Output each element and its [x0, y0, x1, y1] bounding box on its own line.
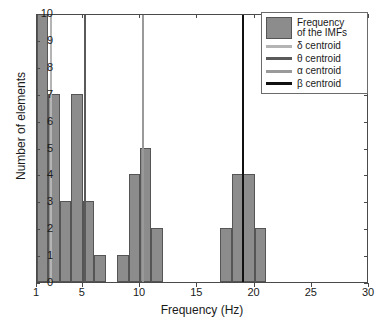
- y-tick-mark-right: [364, 95, 368, 96]
- x-tick-mark-top: [368, 14, 369, 18]
- legend-label-alpha: α centroid: [297, 66, 341, 77]
- x-tick-label: 15: [176, 287, 216, 298]
- x-tick-mark: [311, 283, 312, 287]
- x-tick-label: 1: [16, 287, 56, 298]
- histogram-bar: [117, 255, 128, 282]
- x-tick-mark: [254, 283, 255, 287]
- y-tick-mark-right: [364, 202, 368, 203]
- legend-label-beta: β centroid: [297, 79, 341, 90]
- y-tick-mark: [36, 95, 40, 96]
- centroid-line-alpha: [142, 15, 144, 282]
- y-tick-mark-right: [364, 122, 368, 123]
- y-tick-mark: [36, 149, 40, 150]
- legend-patch-frequency-imfs: [266, 17, 292, 39]
- x-tick-mark-top: [196, 14, 197, 18]
- y-tick-mark-right: [364, 229, 368, 230]
- x-tick-mark-top: [36, 14, 37, 18]
- legend-label-line2: of the IMFs: [297, 27, 347, 38]
- x-tick-mark: [196, 283, 197, 287]
- legend-line-delta: [266, 45, 292, 48]
- x-tick-label: 10: [119, 287, 159, 298]
- y-tick-mark: [36, 122, 40, 123]
- y-tick-mark-right: [364, 149, 368, 150]
- y-tick-mark: [36, 256, 40, 257]
- legend-label-delta: δ centroid: [297, 41, 341, 52]
- legend-label-frequency-imfs: Frequencyof the IMFs: [297, 18, 359, 39]
- x-axis-title: Frequency (Hz): [36, 303, 368, 317]
- y-tick-mark: [36, 175, 40, 176]
- histogram-bar: [71, 94, 82, 282]
- x-tick-label: 20: [234, 287, 274, 298]
- centroid-line-theta: [84, 15, 86, 282]
- legend-line-theta: [266, 57, 292, 60]
- y-tick-mark: [36, 229, 40, 230]
- legend-label-theta: θ centroid: [297, 54, 341, 65]
- legend-item-theta-centroid: θ centroid: [266, 54, 362, 65]
- x-tick-mark: [139, 283, 140, 287]
- x-tick-mark: [82, 283, 83, 287]
- legend-line-beta: [266, 82, 292, 85]
- legend-item-alpha-centroid: α centroid: [266, 66, 362, 77]
- y-tick-mark-right: [364, 175, 368, 176]
- x-tick-label: 25: [291, 287, 331, 298]
- y-tick-mark: [36, 202, 40, 203]
- legend-line-alpha: [266, 70, 292, 73]
- legend-label-line1: Frequency: [297, 17, 344, 28]
- x-tick-mark-top: [139, 14, 140, 18]
- legend-item-beta-centroid: β centroid: [266, 79, 362, 90]
- x-tick-label: 30: [348, 287, 388, 298]
- centroid-line-beta: [242, 15, 244, 282]
- histogram-bar: [94, 255, 105, 282]
- x-tick-mark-top: [82, 14, 83, 18]
- legend-item-delta-centroid: δ centroid: [266, 41, 362, 52]
- histogram-bar: [129, 174, 140, 282]
- histogram-bar: [220, 228, 231, 282]
- histogram-bar: [243, 174, 254, 282]
- histogram-figure: 012345678910 151015202530 Number of elem…: [0, 0, 392, 327]
- x-tick-label: 5: [62, 287, 102, 298]
- histogram-bar: [255, 228, 266, 282]
- y-tick-mark-right: [364, 256, 368, 257]
- histogram-bar: [151, 228, 162, 282]
- y-tick-mark: [36, 68, 40, 69]
- y-tick-mark: [36, 41, 40, 42]
- histogram-bar: [60, 201, 71, 282]
- x-tick-mark-top: [254, 14, 255, 18]
- x-tick-mark: [368, 283, 369, 287]
- legend-item-frequency-imfs: Frequencyof the IMFs: [266, 17, 362, 39]
- legend: Frequencyof the IMFs δ centroid θ centro…: [261, 12, 368, 94]
- y-axis-title: Number of elements: [14, 46, 28, 206]
- x-tick-mark: [36, 283, 37, 287]
